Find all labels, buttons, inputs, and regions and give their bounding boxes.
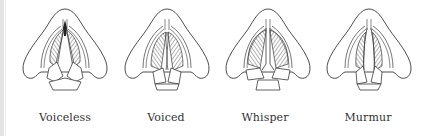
label-voiceless: Voiceless bbox=[39, 111, 91, 124]
label-whisper: Whisper bbox=[241, 111, 288, 124]
panel-whisper bbox=[222, 6, 314, 96]
larynx-murmur-diagram bbox=[323, 6, 415, 96]
page-edge-line bbox=[5, 0, 6, 136]
panel-murmur bbox=[323, 6, 415, 96]
page-edge-bar bbox=[0, 0, 4, 136]
label-murmur: Murmur bbox=[345, 111, 392, 124]
panel-voiceless bbox=[19, 6, 111, 96]
larynx-voiced-diagram bbox=[121, 6, 213, 96]
label-voiced: Voiced bbox=[147, 111, 184, 124]
panel-voiced bbox=[121, 6, 213, 96]
larynx-whisper-diagram bbox=[222, 6, 314, 96]
larynx-voiceless-diagram bbox=[19, 6, 111, 96]
